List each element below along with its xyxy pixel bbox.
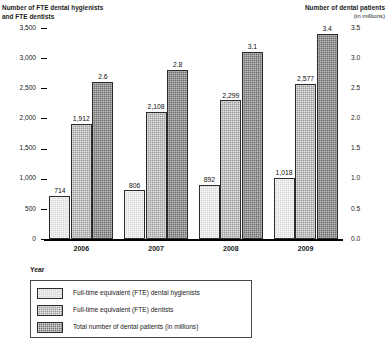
category-label: 2006 — [44, 245, 119, 252]
dual-axis-bar-chart: Number of FTE dental hygienists and FTE … — [0, 0, 387, 345]
legend-swatch — [37, 305, 63, 316]
left-tick-label: 1,500 — [19, 145, 36, 152]
bar: 3.1 — [242, 52, 263, 239]
legend-swatch — [37, 322, 63, 333]
bar: 714 — [49, 196, 70, 239]
right-tick-label: 2.0 — [351, 115, 360, 122]
left-tick-label: 2,500 — [19, 85, 36, 92]
bar-value-label: 1,018 — [276, 170, 293, 177]
bar-value-label: 1,912 — [73, 116, 90, 123]
right-tick-label: 1.0 — [351, 175, 360, 182]
left-axis-title: Number of FTE dental hygienists and FTE … — [2, 3, 103, 22]
bar-value-label: 2,108 — [148, 104, 165, 111]
right-tick-label: 3.0 — [351, 55, 360, 62]
legend-label: Full-time equivalent (FTE) dentists — [73, 307, 173, 314]
bar-group: 7141,9122.6 — [44, 28, 119, 239]
bar: 2.8 — [167, 70, 188, 239]
bar: 1,912 — [71, 124, 92, 239]
right-tick-label: 2.5 — [351, 85, 360, 92]
right-tick-label: 3.5 — [351, 25, 360, 32]
left-tick-label: 0 — [32, 236, 36, 243]
bar: 2.6 — [92, 82, 113, 239]
legend-item[interactable]: Total number of dental patients (in mill… — [37, 321, 198, 334]
left-tick-label: 1,000 — [19, 175, 36, 182]
legend-item[interactable]: Full-time equivalent (FTE) dental hygien… — [37, 287, 200, 300]
bar-group: 8062,1082.8 — [119, 28, 194, 239]
left-tick-label: 3,000 — [19, 55, 36, 62]
category-label: 2008 — [194, 245, 269, 252]
left-tick-label: 3,500 — [19, 25, 36, 32]
right-axis-subtitle: (in millions) — [354, 12, 385, 19]
category-label: 2009 — [268, 245, 343, 252]
legend-swatch — [37, 288, 63, 299]
left-axis-ticks: 05001,0001,5002,0002,5003,0003,500 — [0, 28, 40, 239]
bar: 3.4 — [317, 34, 338, 239]
bar-value-label: 2,577 — [297, 76, 314, 83]
x-axis-label: Year — [30, 266, 44, 273]
bar-group: 8922,2993.1 — [194, 28, 269, 239]
legend: Full-time equivalent (FTE) dental hygien… — [30, 280, 252, 338]
bar-value-label: 2,299 — [222, 93, 239, 100]
bar-value-label: 806 — [129, 183, 140, 190]
right-tick-mark — [44, 239, 47, 240]
bar: 1,018 — [274, 178, 295, 239]
bar: 892 — [199, 185, 220, 239]
bar-group: 1,0182,5773.4 — [268, 28, 343, 239]
bar: 806 — [124, 190, 145, 239]
left-tick-label: 500 — [25, 206, 36, 213]
bar-value-label: 2.6 — [98, 74, 107, 81]
bar-value-label: 892 — [204, 177, 215, 184]
legend-item[interactable]: Full-time equivalent (FTE) dentists — [37, 304, 173, 317]
bar-value-label: 3.4 — [322, 26, 331, 33]
bar: 2,299 — [220, 100, 241, 239]
left-tick-label: 2,000 — [19, 115, 36, 122]
plot-area: 7141,9122.68062,1082.88922,2993.11,0182,… — [44, 28, 343, 241]
legend-label: Total number of dental patients (in mill… — [73, 324, 198, 331]
bar: 2,108 — [146, 112, 167, 239]
bar: 2,577 — [295, 84, 316, 239]
bar-value-label: 714 — [54, 188, 65, 195]
bar-value-label: 3.1 — [248, 44, 257, 51]
right-tick-label: 0.5 — [351, 206, 360, 213]
right-tick-label: 1.5 — [351, 145, 360, 152]
right-axis-ticks: 0.00.51.01.52.02.53.03.5 — [347, 28, 385, 239]
category-label: 2007 — [119, 245, 194, 252]
legend-label: Full-time equivalent (FTE) dental hygien… — [73, 290, 200, 297]
right-tick-label: 0.0 — [351, 236, 360, 243]
bar-value-label: 2.8 — [173, 62, 182, 69]
right-axis-title: Number of dental patients — [305, 3, 385, 12]
